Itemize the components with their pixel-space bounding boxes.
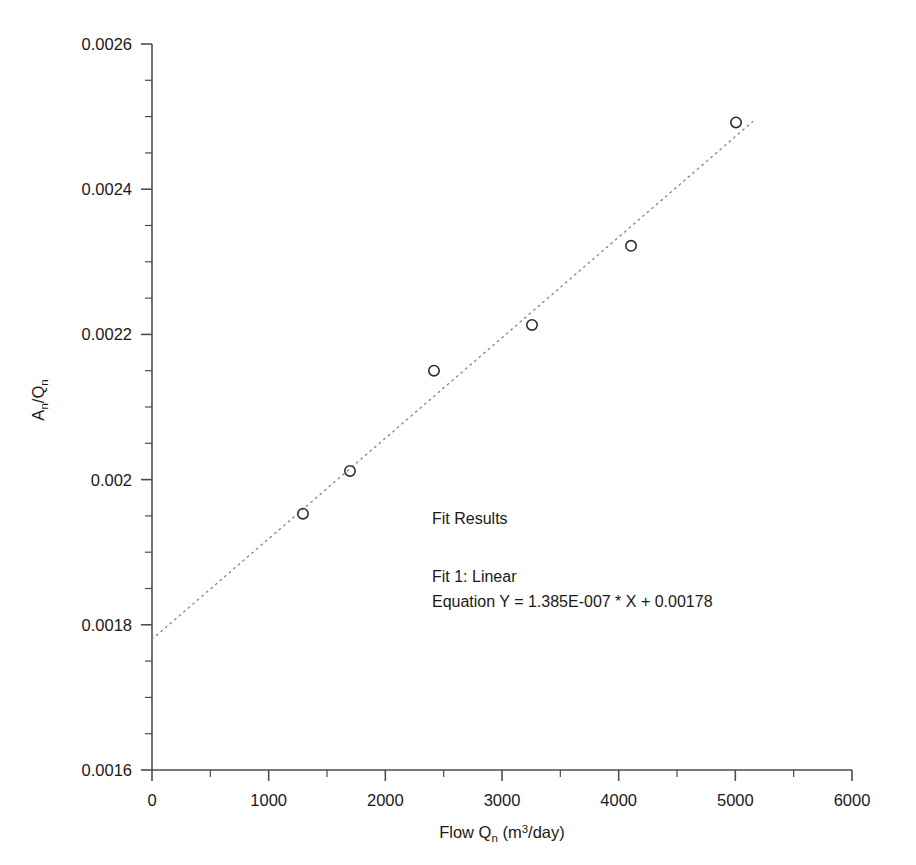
x-tick-label: 5000 <box>717 791 754 809</box>
y-axis-ticks <box>141 44 152 770</box>
data-point-marker <box>345 466 355 476</box>
x-axis-tick-labels: 0100020003000400050006000 <box>147 791 870 809</box>
y-axis-title-slash-q: /Q <box>29 386 47 404</box>
x-tick-label: 6000 <box>834 791 871 809</box>
fit-results-annotation: Fit Results Fit 1: Linear Equation Y = 1… <box>432 510 713 610</box>
axis-lines <box>152 44 852 770</box>
y-tick-label: 0.0018 <box>82 616 132 634</box>
svg-text:Flow Qn (m3/day): Flow Qn (m3/day) <box>439 823 565 844</box>
x-axis-title-unit-close: /day) <box>528 823 565 841</box>
x-axis-title-flow-q: Flow Q <box>439 823 491 841</box>
y-axis-title-sub-n2: n <box>38 379 50 385</box>
chart-figure: 0.00160.00180.0020.00220.00240.0026 0100… <box>0 0 916 865</box>
y-tick-label: 0.0026 <box>82 35 132 53</box>
y-tick-label: 0.0022 <box>82 325 132 343</box>
x-tick-label: 0 <box>147 791 156 809</box>
x-tick-label: 1000 <box>250 791 287 809</box>
x-axis-title: Flow Qn (m3/day) <box>439 823 565 844</box>
data-point-marker <box>429 366 439 376</box>
linear-fit-line <box>152 121 753 639</box>
y-axis-title-a: A <box>29 410 47 421</box>
x-tick-label: 2000 <box>367 791 404 809</box>
y-tick-label: 0.002 <box>91 471 132 489</box>
data-point-marker <box>626 241 636 251</box>
x-tick-label: 4000 <box>600 791 637 809</box>
x-axis-ticks <box>152 770 852 781</box>
y-tick-label: 0.0016 <box>82 761 132 779</box>
data-point-markers <box>298 117 741 519</box>
data-point-marker <box>527 320 537 330</box>
fit-equation-label: Equation Y = 1.385E-007 * X + 0.00178 <box>432 593 713 610</box>
fit-results-heading: Fit Results <box>432 510 508 527</box>
y-axis-title: An/Qn <box>29 379 50 420</box>
svg-text:An/Qn: An/Qn <box>29 379 50 420</box>
y-axis-tick-labels: 0.00160.00180.0020.00220.00240.0026 <box>82 35 132 779</box>
x-axis-title-unit-open: (m <box>498 823 522 841</box>
x-tick-label: 3000 <box>484 791 521 809</box>
y-tick-label: 0.0024 <box>82 180 132 198</box>
scatter-plot-svg: 0.00160.00180.0020.00220.00240.0026 0100… <box>0 0 916 865</box>
data-point-marker <box>731 117 741 127</box>
fit-line <box>152 121 753 639</box>
fit-name-label: Fit 1: Linear <box>432 568 517 585</box>
